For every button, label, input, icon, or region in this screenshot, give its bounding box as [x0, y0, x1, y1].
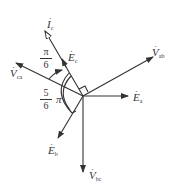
angle-pi-suffix: π: [56, 94, 62, 105]
arc-pi-6: [49, 70, 62, 79]
label-Vca: ·Vca: [10, 68, 22, 80]
label-Ic: ·Ic: [47, 19, 53, 31]
phasor-Ec-arrowhead: [62, 59, 66, 67]
angle-5-6-pi: 56: [40, 88, 52, 111]
phasor-Vab: [83, 57, 153, 96]
label-Ec: ·Ec: [68, 52, 77, 64]
label-Vbc: ·Vbc: [89, 170, 101, 182]
angle-pi-over-6: π6: [40, 47, 52, 70]
arc-5pi-6-a: [63, 76, 71, 110]
label-Vab: ·Vab: [152, 47, 164, 59]
label-Eb: ·Eb: [48, 145, 58, 157]
phasor-diagram: [0, 0, 172, 188]
label-Ea: ·Ea: [133, 92, 142, 104]
